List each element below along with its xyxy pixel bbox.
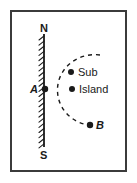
- compass-label-south: S: [40, 150, 47, 161]
- point-label-island: Island: [79, 84, 108, 95]
- point-marker-a: [42, 86, 48, 92]
- compass-label-north: N: [40, 23, 48, 34]
- point-marker-b: [87, 122, 93, 128]
- diagram-canvas: [0, 0, 137, 183]
- point-marker-sub: [68, 69, 74, 75]
- point-marker-island: [69, 86, 75, 92]
- point-label-sub: Sub: [78, 67, 98, 78]
- point-label-b: B: [96, 120, 104, 131]
- figure-container: N S A B Sub Island: [0, 0, 137, 183]
- point-label-a: A: [30, 84, 38, 95]
